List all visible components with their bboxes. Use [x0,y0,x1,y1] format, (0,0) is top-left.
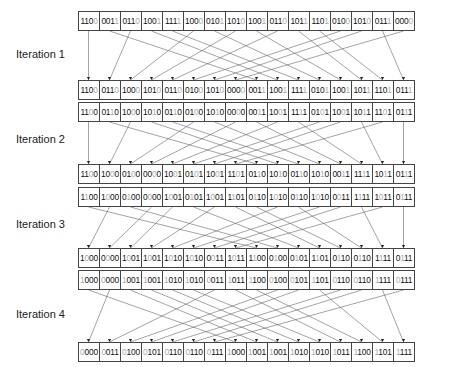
bit-cell: 1100 [78,164,100,184]
iteration-label: Iteration 2 [16,133,65,145]
bit-cell: 0110 [183,342,205,362]
bit-cell: 1001 [267,342,289,362]
bit-cell: 0011 [330,164,352,184]
bit-cell: 0101 [309,80,331,100]
bit-cell: 1011 [372,187,394,207]
bit-cell: 1001 [204,164,226,184]
bit-cell: 1101 [372,342,394,362]
bit-row: 1100100001000000100101011001110101101010… [78,187,414,207]
bit-cell: 0100 [120,187,142,207]
bit-cell: 1001 [141,248,163,268]
bit-cell: 0111 [393,102,415,122]
bit-cell: 1010 [225,11,247,31]
bit-cell: 1010 [162,270,184,290]
bit-cell: 1011 [351,102,373,122]
bit-cell: 0100 [267,248,289,268]
bit-cell: 1001 [162,187,184,207]
bit-cell: 0000 [393,11,415,31]
bit-cell: 1010 [309,164,331,184]
bit-cell: 0110 [288,187,310,207]
bit-cell: 0110 [330,270,352,290]
bit-cell: 1001 [120,270,142,290]
bit-cell: 0110 [246,164,268,184]
bit-cell: 0111 [393,187,415,207]
bit-cell: 1000 [78,248,100,268]
bit-cell: 0110 [246,187,268,207]
bit-cell: 0110 [162,80,184,100]
bit-cell: 0000 [99,248,121,268]
bit-cell: 1010 [351,11,373,31]
bit-cell: 1011 [225,248,247,268]
bit-cell: 1010 [141,102,163,122]
bit-cell: 0110 [120,11,142,31]
bit-cell: 1010 [309,342,331,362]
bit-row: 0000001101000101011001100111100010011001… [78,342,414,362]
bit-cell: 0111 [372,11,394,31]
bit-cell: 1001 [267,102,289,122]
bit-cell: 0101 [288,270,310,290]
bit-cell: 0101 [288,248,310,268]
bit-cell: 0011 [204,270,226,290]
bit-cell: 1001 [246,11,268,31]
bit-cell: 1010 [288,342,310,362]
bit-cell: 0100 [183,102,205,122]
bit-cell: 0101 [309,102,331,122]
bit-cell: 1000 [78,270,100,290]
bit-cell: 1000 [99,164,121,184]
bit-cell: 0101 [141,342,163,362]
iteration-label: Iteration 1 [16,48,65,60]
bit-cell: 1011 [330,342,352,362]
bit-cell: 1101 [309,248,331,268]
bit-cell: 0110 [351,248,373,268]
bit-cell: 1100 [78,11,100,31]
bit-cell: 0110 [162,102,184,122]
bit-cell: 1111 [288,80,310,100]
bit-cell: 0111 [393,270,415,290]
bit-row: 1000000010011001101010100011101111000100… [78,248,414,268]
bit-cell: 1010 [162,248,184,268]
bit-cell: 1101 [372,102,394,122]
bit-cell: 0110 [351,270,373,290]
bit-cell: 1111 [351,164,373,184]
bit-cell: 1000 [225,342,247,362]
bit-cell: 0000 [78,342,100,362]
bit-cell: 0000 [141,187,163,207]
bit-cell: 1001 [141,11,163,31]
bit-cell: 0110 [330,248,352,268]
bit-row: 1000000010011001101010100011101111000100… [78,270,414,290]
bit-cell: 1101 [372,80,394,100]
bit-cell: 1001 [330,102,352,122]
bit-cell: 1010 [183,248,205,268]
bit-cell: 1100 [246,270,268,290]
bit-cell: 0100 [120,164,142,184]
bit-cell: 0011 [99,342,121,362]
bit-cell: 0110 [288,164,310,184]
bit-cell: 0011 [246,80,268,100]
bit-cell: 0000 [141,164,163,184]
bit-cell: 0000 [99,270,121,290]
bit-cell: 0111 [393,248,415,268]
bit-cell: 1111 [372,248,394,268]
bit-cell: 1011 [372,164,394,184]
bit-row: 1100011010001010011001001010000000111001… [78,102,414,122]
bit-cell: 1010 [204,102,226,122]
bit-cell: 0000 [225,102,247,122]
bit-cell: 1010 [267,187,289,207]
bit-cell: 0111 [393,164,415,184]
bit-cell: 1100 [78,187,100,207]
bit-cell: 1010 [309,187,331,207]
bit-cell: 0100 [120,342,142,362]
bit-cell: 1111 [162,11,184,31]
bit-cell: 1000 [99,187,121,207]
bit-cell: 1010 [141,80,163,100]
bit-cell: 1001 [120,248,142,268]
bit-cell: 1111 [372,270,394,290]
bit-cell: 1011 [225,270,247,290]
bit-cell: 1111 [393,342,415,362]
bit-cell: 1101 [309,11,331,31]
bit-cell: 0000 [225,80,247,100]
bit-cell: 1011 [288,11,310,31]
bit-cell: 1011 [351,80,373,100]
bit-cell: 0011 [204,248,226,268]
bit-cell: 1001 [162,164,184,184]
